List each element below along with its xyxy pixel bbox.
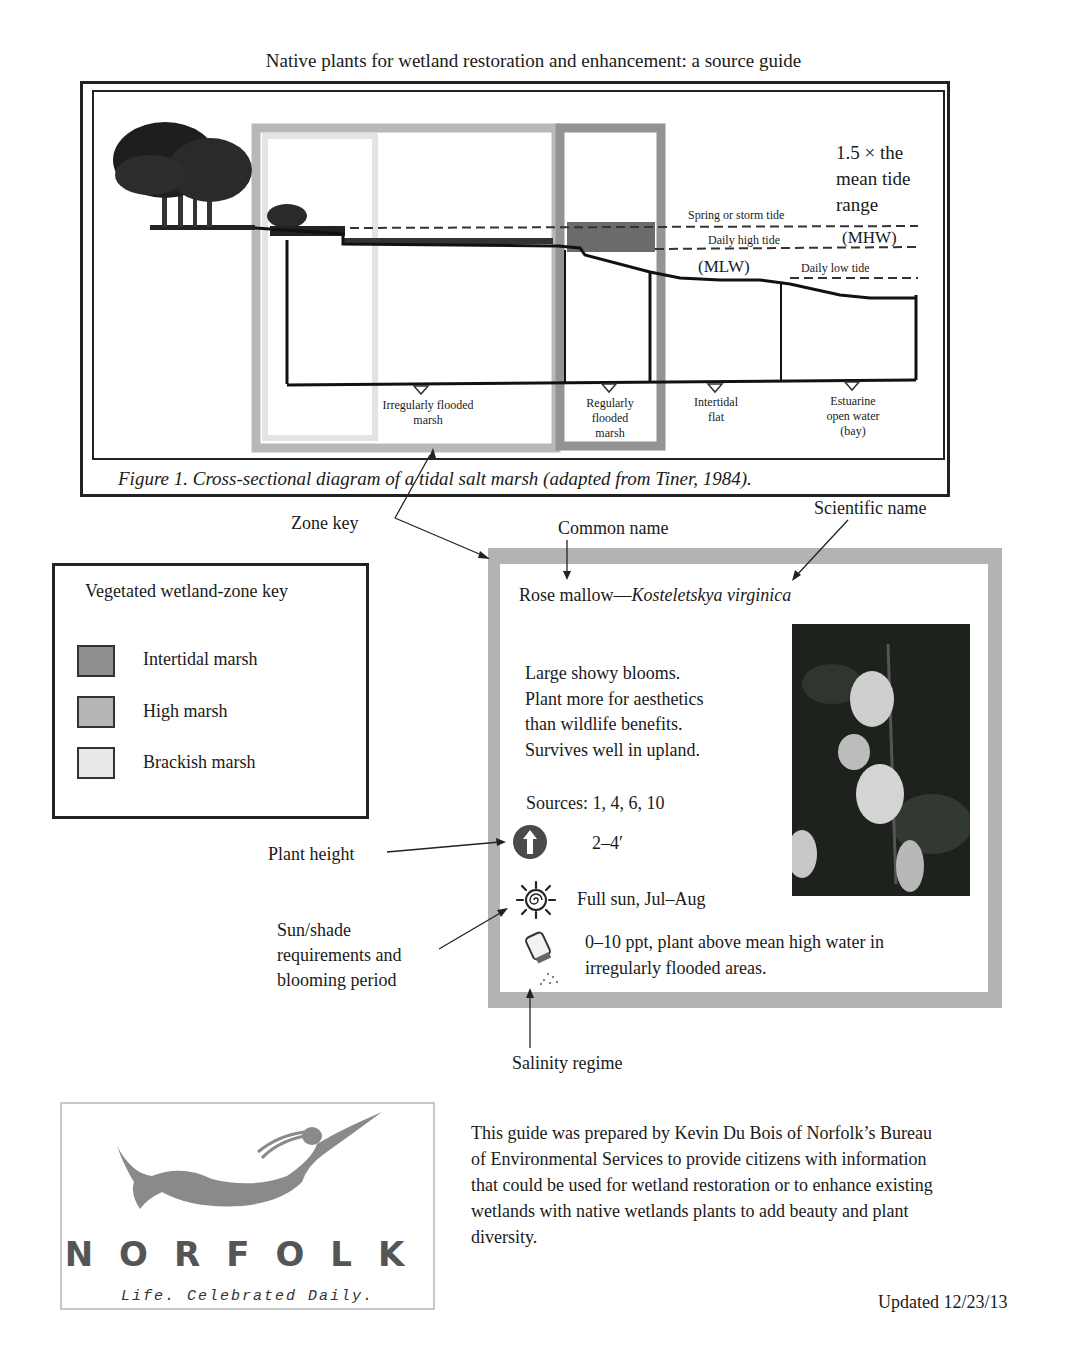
description-line: Plant more for aesthetics (525, 687, 703, 713)
brackish-marsh-swatch (77, 747, 115, 779)
legend-label: Intertidal marsh (143, 649, 257, 670)
annotation-line: requirements and (277, 943, 401, 968)
annotation-line: Sun/shade (277, 918, 401, 943)
tide-range-line: mean tide (836, 166, 910, 192)
plant-name: Rose mallow—Kosteletskya virginica (519, 583, 791, 609)
daily-low-tide-label: Daily low tide (801, 261, 870, 276)
plant-height-annotation: Plant height (268, 842, 355, 867)
zone-label-line: flooded (570, 411, 650, 426)
trees-icon (113, 122, 255, 230)
mhw-label: (MHW) (842, 228, 897, 248)
zone-label-line: (bay) (808, 424, 898, 439)
zone-label-regular: Regularly flooded marsh (570, 396, 650, 441)
common-name: Rose mallow (519, 585, 614, 605)
plant-height-icon (512, 824, 548, 860)
tide-range-line: range (836, 192, 910, 218)
zone-label-line: Intertidal (676, 395, 756, 410)
intertidal-marsh-swatch (77, 645, 115, 677)
zone-key-title: Vegetated wetland-zone key (85, 581, 288, 602)
spring-tide-label: Spring or storm tide (688, 208, 784, 223)
sun-icon (514, 879, 558, 921)
norfolk-logo: NORFOLK Life. Celebrated Daily. (60, 1102, 435, 1310)
salt-marsh-cross-section (0, 0, 1067, 520)
zone-label-line: Irregularly flooded (368, 398, 488, 413)
plant-sources: Sources: 1, 4, 6, 10 (526, 791, 665, 817)
scientific-name-annotation: Scientific name (814, 496, 926, 521)
zone-key-annotation: Zone key (291, 511, 358, 536)
salinity-line: irregularly flooded areas. (585, 956, 884, 982)
legend-label: High marsh (143, 701, 228, 722)
zone-key-legend: Vegetated wetland-zone key Intertidal ma… (52, 563, 369, 819)
figure-caption: Figure 1. Cross-sectional diagram of a t… (118, 468, 752, 490)
zone-label-line: open water (808, 409, 898, 424)
salinity-annotation: Salinity regime (512, 1051, 622, 1076)
name-separator: — (614, 585, 632, 605)
tide-range-line: 1.5 × the (836, 140, 910, 166)
tide-range-note: 1.5 × the mean tide range (836, 140, 910, 218)
zone-label-line: marsh (368, 413, 488, 428)
scientific-name: Kosteletskya virginica (632, 585, 792, 605)
zone-label-line: Regularly (570, 396, 650, 411)
annotation-line: blooming period (277, 968, 401, 993)
sun-bloom-value: Full sun, Jul–Aug (577, 887, 706, 913)
common-name-annotation: Common name (558, 516, 669, 541)
mermaid-icon (62, 1104, 433, 1234)
description-line: than wildlife benefits. (525, 712, 703, 738)
mlw-label: (MLW) (698, 257, 750, 277)
salt-shaker-icon (522, 928, 566, 988)
legend-label: Brackish marsh (143, 752, 255, 773)
high-marsh-swatch (77, 696, 115, 728)
sun-shade-annotation: Sun/shade requirements and blooming peri… (277, 918, 401, 993)
plant-photo (792, 624, 970, 896)
zone-label-line: Estuarine (808, 394, 898, 409)
about-text: This guide was prepared by Kevin Du Bois… (471, 1120, 941, 1250)
daily-high-tide-label: Daily high tide (708, 233, 780, 248)
updated-date: Updated 12/23/13 (878, 1292, 1007, 1313)
description-line: Survives well in upland. (525, 738, 703, 764)
zone-label-line: marsh (570, 426, 650, 441)
norfolk-wordmark: NORFOLK (62, 1234, 433, 1274)
zone-label-line: flat (676, 410, 756, 425)
brackish-marsh-zone-box (265, 136, 375, 438)
zone-label-intertidal-flat: Intertidal flat (676, 395, 756, 425)
plant-description: Large showy blooms. Plant more for aesth… (525, 661, 703, 763)
zone-label-open-water: Estuarine open water (bay) (808, 394, 898, 439)
zone-label-irregular: Irregularly flooded marsh (368, 398, 488, 428)
description-line: Large showy blooms. (525, 661, 703, 687)
plant-height-value: 2–4′ (592, 831, 623, 857)
salinity-line: 0–10 ppt, plant above mean high water in (585, 930, 884, 956)
salinity-value: 0–10 ppt, plant above mean high water in… (585, 930, 884, 981)
logo-tagline: Life. Celebrated Daily. (62, 1288, 433, 1305)
shrub-icon (267, 204, 307, 228)
